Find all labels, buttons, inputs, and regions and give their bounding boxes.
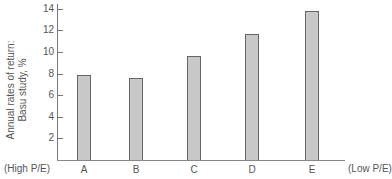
y-axis-label: Annual rates of return: Basu study, % (5, 15, 29, 165)
y-tick (57, 74, 63, 75)
y-tick-label: 2 (34, 133, 54, 143)
bar-c (187, 56, 201, 160)
y-tick-label: 10 (34, 47, 54, 57)
bar-a (77, 75, 91, 160)
bar-e (305, 11, 319, 160)
y-tick (57, 95, 63, 96)
y-axis-label-line-1: Annual rates of return: (5, 15, 17, 165)
y-tick (57, 138, 63, 139)
y-tick (57, 52, 63, 53)
y-tick (57, 117, 63, 118)
x-axis-baseline (57, 160, 345, 161)
y-tick-label: 12 (34, 25, 54, 35)
y-axis-label-line-2: Basu study, % (17, 15, 29, 165)
bar-chart: Annual rates of return: Basu study, % 24… (0, 0, 392, 179)
category-label: D (242, 164, 262, 175)
low-pe-label: (Low P/E) (348, 163, 392, 174)
category-label: A (74, 164, 94, 175)
bar-d (245, 34, 259, 160)
y-tick-label: 6 (34, 90, 54, 100)
y-tick-label: 14 (34, 4, 54, 14)
bar-b (129, 78, 143, 160)
high-pe-label: (High P/E) (4, 163, 50, 174)
category-label: C (184, 164, 204, 175)
y-tick-label: 8 (34, 69, 54, 79)
category-label: B (126, 164, 146, 175)
y-tick-label: 4 (34, 112, 54, 122)
category-label: E (302, 164, 322, 175)
y-tick (57, 9, 63, 10)
y-tick (57, 30, 63, 31)
